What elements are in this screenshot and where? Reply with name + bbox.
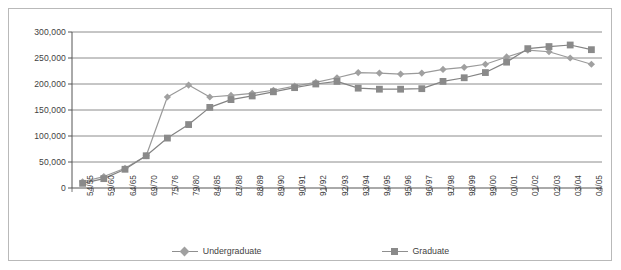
- chart-series-lines: [83, 45, 592, 183]
- data-point-undergraduate-75-76[interactable]: [164, 93, 171, 100]
- x-tick-label: 00/01: [510, 175, 519, 196]
- data-point-graduate-00-01[interactable]: [503, 59, 510, 66]
- y-tick-label: 100,000: [10, 131, 66, 141]
- data-point-undergraduate-98-99[interactable]: [461, 64, 468, 71]
- x-tick-label: 87/88: [235, 175, 244, 196]
- x-tick-label: 91/92: [319, 175, 328, 196]
- data-point-graduate-96-97[interactable]: [418, 85, 425, 92]
- chart-plot-canvas: [0, 0, 621, 270]
- x-tick-label: 54/55: [86, 175, 95, 196]
- legend-entry-graduate[interactable]: Graduate: [382, 246, 450, 256]
- data-point-graduate-98-99[interactable]: [461, 74, 468, 81]
- data-point-graduate-91-92[interactable]: [312, 81, 319, 88]
- x-tick-label: 89/90: [277, 175, 286, 196]
- data-point-undergraduate-99-00[interactable]: [482, 61, 489, 68]
- data-point-undergraduate-84-85[interactable]: [206, 93, 213, 100]
- x-tick-label: 99/00: [489, 175, 498, 196]
- data-point-graduate-99-00[interactable]: [482, 69, 489, 76]
- data-point-undergraduate-95-96[interactable]: [397, 71, 404, 78]
- data-point-undergraduate-93-94[interactable]: [355, 69, 362, 76]
- x-tick-label: 93/94: [362, 175, 371, 196]
- data-point-graduate-90-91[interactable]: [291, 84, 298, 91]
- diamond-marker-icon: [172, 246, 198, 256]
- y-tick-label: 0: [10, 183, 66, 193]
- chart-y-axis-ticks: [68, 32, 72, 188]
- data-point-graduate-69-70[interactable]: [143, 152, 150, 159]
- x-tick-label: 01/02: [531, 175, 540, 196]
- data-point-graduate-75-76[interactable]: [164, 135, 171, 142]
- data-point-graduate-97-98[interactable]: [440, 78, 447, 85]
- chart-legend: Undergraduate Graduate: [0, 241, 621, 261]
- data-point-graduate-03-04[interactable]: [567, 42, 574, 49]
- data-point-graduate-79-80[interactable]: [185, 121, 192, 128]
- x-tick-label: 64/65: [129, 175, 138, 196]
- data-point-graduate-89-90[interactable]: [270, 88, 277, 95]
- y-tick-label: 150,000: [10, 105, 66, 115]
- x-tick-label: 96/97: [425, 175, 434, 196]
- x-tick-label: 03/04: [574, 175, 583, 196]
- legend-label-undergraduate: Undergraduate: [203, 246, 262, 256]
- data-point-graduate-88-89[interactable]: [249, 93, 256, 100]
- data-point-undergraduate-04-05[interactable]: [588, 61, 595, 68]
- y-tick-label: 50,000: [10, 157, 66, 167]
- square-marker-icon: [382, 246, 408, 256]
- data-point-graduate-02-03[interactable]: [546, 43, 553, 50]
- data-point-graduate-92-93[interactable]: [334, 78, 341, 85]
- x-tick-label: 92/93: [341, 175, 350, 196]
- data-point-graduate-01-02[interactable]: [524, 45, 531, 52]
- data-point-graduate-84-85[interactable]: [206, 104, 213, 111]
- x-tick-label: 88/89: [256, 175, 265, 196]
- x-tick-label: 69/70: [150, 175, 159, 196]
- data-point-undergraduate-79-80[interactable]: [185, 81, 192, 88]
- x-tick-label: 90/91: [298, 175, 307, 196]
- legend-label-graduate: Graduate: [413, 246, 450, 256]
- data-point-graduate-54-55[interactable]: [79, 180, 86, 187]
- x-tick-label: 95/96: [404, 175, 413, 196]
- x-tick-label: 97/98: [447, 175, 456, 196]
- data-point-graduate-94-95[interactable]: [376, 86, 383, 93]
- x-tick-label: 98/99: [468, 175, 477, 196]
- data-point-graduate-04-05[interactable]: [588, 46, 595, 53]
- data-point-graduate-93-94[interactable]: [355, 85, 362, 92]
- data-point-undergraduate-97-98[interactable]: [439, 66, 446, 73]
- y-tick-label: 250,000: [10, 53, 66, 63]
- y-tick-label: 200,000: [10, 79, 66, 89]
- x-tick-label: 59/60: [107, 175, 116, 196]
- series-line-graduate: [83, 45, 592, 183]
- x-tick-label: 94/95: [383, 175, 392, 196]
- x-tick-label: 04/05: [595, 175, 604, 196]
- data-point-graduate-64-65[interactable]: [122, 166, 129, 173]
- data-point-undergraduate-03-04[interactable]: [567, 54, 574, 61]
- data-point-undergraduate-94-95[interactable]: [376, 69, 383, 76]
- y-tick-label: 300,000: [10, 27, 66, 37]
- legend-entry-undergraduate[interactable]: Undergraduate: [172, 246, 262, 256]
- data-point-undergraduate-96-97[interactable]: [418, 69, 425, 76]
- x-tick-label: 79/80: [192, 175, 201, 196]
- data-point-graduate-95-96[interactable]: [397, 86, 404, 93]
- data-point-graduate-87-88[interactable]: [228, 96, 235, 103]
- x-tick-label: 84/85: [213, 175, 222, 196]
- x-tick-label: 02/03: [553, 175, 562, 196]
- x-tick-label: 75/76: [171, 175, 180, 196]
- chart-series-markers: [79, 42, 595, 187]
